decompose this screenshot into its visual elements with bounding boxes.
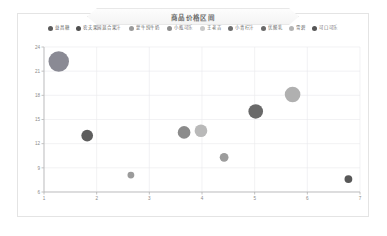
chart-card: 商品价格区间 益昌糖农夫果园混合果汁蒙牛纯牛奶小瓶可乐王老吉小青柠汁优酸乳雪碧可… [17,13,369,217]
y-tick-label: 24 [35,45,41,50]
y-tick-label: 15 [35,117,41,122]
scatter-plot-svg: 6912151821241234567 [18,14,370,218]
y-tick-label: 18 [35,93,41,98]
x-tick-label: 3 [148,196,151,201]
y-tick-label: 21 [35,69,41,74]
x-tick-label: 7 [359,196,362,201]
data-point-bubble[interactable] [345,175,353,183]
y-tick-label: 6 [37,190,40,195]
plot-area: 6912151821241234567 [18,14,368,216]
x-tick-label: 2 [95,196,98,201]
data-point-bubble[interactable] [49,51,69,71]
y-tick-label: 9 [37,166,40,171]
data-point-bubble[interactable] [127,172,134,179]
data-point-bubble[interactable] [81,130,93,142]
data-point-bubble[interactable] [178,126,191,139]
data-point-bubble[interactable] [220,153,229,162]
x-tick-label: 6 [306,196,309,201]
x-tick-label: 1 [43,196,46,201]
data-point-bubble[interactable] [285,87,301,103]
x-tick-label: 5 [253,196,256,201]
data-point-bubble[interactable] [248,104,263,119]
data-point-bubble[interactable] [195,124,208,137]
x-tick-label: 4 [201,196,204,201]
y-tick-label: 12 [35,141,41,146]
